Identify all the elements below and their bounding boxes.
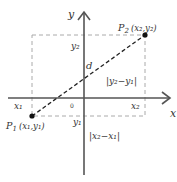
origin-label: 0 bbox=[70, 102, 74, 109]
distance-diagram: y x 0 P2(x₂,y₂) P1(x₁,y₁) y₂ y₁ x₁ x₂ d … bbox=[0, 0, 177, 182]
distance-d-label: d bbox=[86, 60, 92, 71]
dy-label: |y₂−y₁| bbox=[106, 76, 137, 87]
p2-label: P2(x₂,y₂) bbox=[117, 22, 157, 35]
y-axis-label: y bbox=[67, 8, 75, 21]
dx-label: |x₂−x₁| bbox=[89, 131, 120, 142]
x-axis-label: x bbox=[170, 107, 177, 120]
y1-label: y₁ bbox=[72, 117, 82, 127]
point-p2 bbox=[142, 32, 147, 37]
point-p1 bbox=[29, 113, 34, 118]
x2-label: x₂ bbox=[131, 101, 140, 111]
x1-label: x₁ bbox=[14, 101, 23, 111]
y2-label: y₂ bbox=[70, 41, 80, 51]
p1-label: P1(x₁,y₁) bbox=[5, 120, 45, 133]
